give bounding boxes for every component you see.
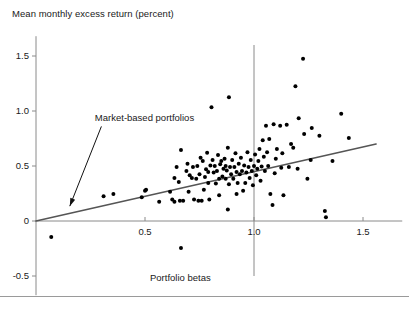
data-point (330, 159, 334, 163)
data-point (280, 151, 284, 155)
data-point (238, 172, 242, 176)
y-tick-label: 1.0 (0, 105, 29, 116)
data-point (242, 163, 246, 167)
annotation-arrow-group (70, 126, 102, 206)
data-point (259, 179, 263, 183)
data-point (265, 150, 269, 154)
data-point (228, 165, 232, 169)
data-point (179, 246, 183, 250)
data-point (247, 165, 251, 169)
data-point (263, 169, 267, 173)
x-axis-label: Portfolio betas (150, 272, 211, 283)
data-point (220, 174, 224, 178)
data-point (207, 198, 211, 202)
data-point (260, 165, 264, 169)
data-point (226, 146, 230, 150)
data-point (281, 193, 285, 197)
data-point (317, 134, 321, 138)
data-point (297, 116, 301, 120)
data-point (237, 162, 241, 166)
data-point (157, 200, 161, 204)
data-point (144, 188, 148, 192)
data-point (305, 177, 309, 181)
data-point (256, 159, 260, 163)
data-point (268, 192, 272, 196)
data-point (214, 182, 218, 186)
data-point (235, 170, 239, 174)
x-tick-label: 1.0 (242, 226, 266, 237)
data-point (175, 165, 179, 169)
data-point (102, 194, 106, 198)
data-point (251, 183, 255, 187)
data-point (198, 172, 202, 176)
data-point (179, 148, 183, 152)
data-point (323, 209, 327, 213)
data-point (215, 169, 219, 173)
data-point (225, 168, 229, 172)
data-point (245, 150, 249, 154)
data-point (111, 192, 115, 196)
data-point (230, 158, 234, 162)
data-point (205, 151, 209, 155)
data-point (255, 167, 259, 171)
data-point (235, 192, 239, 196)
data-point (172, 200, 176, 204)
data-point (262, 155, 266, 159)
data-point (254, 173, 258, 177)
data-point (273, 171, 277, 175)
data-point (168, 190, 172, 194)
data-point (213, 164, 217, 168)
data-point (310, 126, 314, 130)
data-point (217, 193, 221, 197)
data-point (339, 112, 343, 116)
data-point (208, 163, 212, 167)
data-point (231, 177, 235, 181)
data-point (261, 138, 265, 142)
data-point (49, 235, 53, 239)
data-point (206, 170, 210, 174)
x-tick-label: 0.5 (133, 226, 157, 237)
data-point (250, 169, 254, 173)
data-point (252, 164, 256, 168)
data-point (266, 164, 270, 168)
data-point (240, 169, 244, 173)
data-point (302, 132, 306, 136)
data-point (274, 157, 278, 161)
data-point (243, 181, 247, 185)
scatter-plot-canvas (0, 0, 409, 310)
data-point (226, 207, 230, 211)
annotation-arrow-shaft (70, 126, 102, 206)
data-point (285, 123, 289, 127)
data-point (293, 84, 297, 88)
data-point (239, 156, 243, 160)
figure-container: Mean monthly excess return (percent) -0.… (0, 0, 409, 310)
data-point (296, 167, 300, 171)
data-point (264, 124, 268, 128)
data-point (211, 158, 215, 162)
data-point (227, 95, 231, 99)
data-point (241, 189, 245, 193)
data-point (224, 177, 228, 181)
x-tick-label: 1.5 (351, 226, 375, 237)
data-point (190, 176, 194, 180)
data-point (203, 175, 207, 179)
data-point (224, 164, 228, 168)
data-point (309, 158, 313, 162)
data-point (202, 188, 206, 192)
data-point (181, 199, 185, 203)
data-point (289, 142, 293, 146)
data-point (201, 159, 205, 163)
data-point (140, 195, 144, 199)
data-point (324, 215, 328, 219)
data-point (236, 181, 240, 185)
data-point (275, 147, 279, 151)
market-based-portfolios-annotation: Market-based portfolios (95, 112, 194, 123)
data-point (223, 157, 227, 161)
annotation-arrow-head (70, 198, 75, 206)
data-point (186, 162, 190, 166)
data-point (219, 159, 223, 163)
data-point (232, 165, 236, 169)
data-point (216, 153, 220, 157)
y-tick-label: -0.5 (0, 270, 29, 281)
data-point (195, 164, 199, 168)
